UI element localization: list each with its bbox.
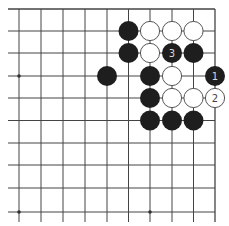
white-stone[interactable] xyxy=(162,88,181,107)
white-stone-move-2[interactable]: 2 xyxy=(205,88,224,107)
white-stone[interactable] xyxy=(162,21,181,40)
black-stone-move-1[interactable]: 1 xyxy=(205,66,225,86)
star-point xyxy=(17,210,21,214)
white-stone[interactable] xyxy=(184,21,203,40)
black-stone[interactable] xyxy=(140,111,160,131)
black-stone[interactable] xyxy=(184,111,204,131)
board-grid xyxy=(8,9,215,222)
go-board[interactable]: 312 xyxy=(0,0,229,226)
move-number-label: 1 xyxy=(212,71,218,82)
black-stone[interactable] xyxy=(140,88,160,108)
black-stone-move-3[interactable]: 3 xyxy=(162,43,182,63)
black-stone[interactable] xyxy=(119,43,139,63)
white-stone[interactable] xyxy=(140,43,159,62)
black-stone[interactable] xyxy=(140,66,160,86)
black-stone[interactable] xyxy=(97,66,117,86)
black-stone[interactable] xyxy=(184,43,204,63)
move-number-label: 2 xyxy=(212,93,218,104)
white-stone[interactable] xyxy=(140,21,159,40)
black-stone[interactable] xyxy=(119,21,139,41)
star-point xyxy=(148,210,152,214)
white-stone[interactable] xyxy=(162,66,181,85)
black-stone[interactable] xyxy=(162,111,182,131)
white-stone[interactable] xyxy=(184,88,203,107)
move-number-label: 3 xyxy=(169,48,175,59)
star-point xyxy=(17,74,21,78)
